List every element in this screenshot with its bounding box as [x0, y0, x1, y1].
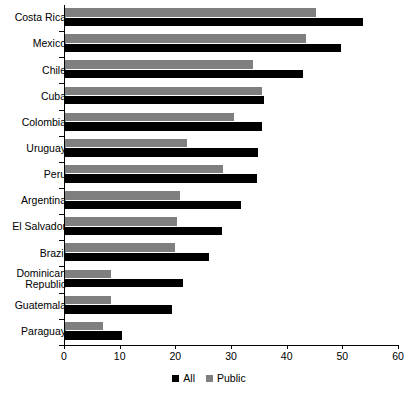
x-axis-tick-label: 30 — [211, 350, 251, 363]
bar-all — [65, 96, 264, 104]
chart-row: Brazil — [0, 240, 418, 266]
bar-all — [65, 331, 122, 339]
bar-all — [65, 122, 262, 130]
category-label: Mexico — [2, 31, 66, 57]
category-label: Brazil — [2, 240, 66, 266]
bar-public — [65, 8, 316, 16]
bar-all — [65, 227, 222, 235]
category-rows: Costa RicaMexicoChileCubaColombiaUruguay… — [0, 5, 418, 345]
x-axis-ticks: 0102030405060 — [0, 345, 418, 367]
x-axis-tick-label: 20 — [155, 350, 195, 363]
x-axis-tick-label: 10 — [100, 350, 140, 363]
bar-all — [65, 70, 303, 78]
x-axis-tick — [64, 345, 65, 349]
legend-label: Public — [217, 372, 246, 384]
x-axis-tick — [175, 345, 176, 349]
chart-row: El Salvador — [0, 214, 418, 240]
category-label: El Salvador — [2, 214, 66, 240]
bar-public — [65, 87, 262, 95]
bar-all — [65, 305, 172, 313]
bar-all — [65, 279, 183, 287]
legend-swatch-all — [172, 375, 179, 382]
chart-row: Peru — [0, 162, 418, 188]
category-label: Guatemala — [2, 293, 66, 319]
chart-row: Chile — [0, 57, 418, 83]
chart-row: Argentina — [0, 188, 418, 214]
bar-all — [65, 174, 257, 182]
category-label: Paraguay — [2, 319, 66, 345]
category-label: Uruguay — [2, 136, 66, 162]
chart-row: Cuba — [0, 83, 418, 109]
bar-all — [65, 201, 241, 209]
legend-label: All — [183, 372, 195, 384]
bar-public — [65, 60, 253, 68]
category-label: Chile — [2, 57, 66, 83]
bar-public — [65, 165, 223, 173]
category-label: Costa Rica — [2, 5, 66, 31]
bar-all — [65, 44, 341, 52]
category-label: Peru — [2, 162, 66, 188]
bar-public — [65, 139, 187, 147]
x-axis-tick — [342, 345, 343, 349]
category-label: Cuba — [2, 83, 66, 109]
x-axis-tick-label: 0 — [44, 350, 84, 363]
chart-row: Dominican Republic — [0, 266, 418, 292]
bar-public — [65, 217, 177, 225]
bar-public — [65, 191, 180, 199]
chart-legend: AllPublic — [0, 372, 418, 384]
legend-swatch-public — [206, 375, 213, 382]
chart-row: Guatemala — [0, 293, 418, 319]
bar-public — [65, 34, 306, 42]
bar-public — [65, 322, 103, 330]
chart-row: Costa Rica — [0, 5, 418, 31]
legend-item[interactable]: All — [172, 372, 195, 384]
category-label: Dominican Republic — [2, 266, 66, 292]
bar-all — [65, 253, 209, 261]
category-label: Argentina — [2, 188, 66, 214]
bar-public — [65, 243, 175, 251]
category-label: Colombia — [2, 110, 66, 136]
x-axis-tick — [231, 345, 232, 349]
bar-public — [65, 270, 111, 278]
bar-public — [65, 296, 111, 304]
x-axis-tick-label: 50 — [322, 350, 362, 363]
bar-all — [65, 148, 258, 156]
x-axis-tick — [120, 345, 121, 349]
x-axis-tick-label: 40 — [267, 350, 307, 363]
x-axis-tick — [287, 345, 288, 349]
x-axis-tick — [398, 345, 399, 349]
chart-row: Uruguay — [0, 136, 418, 162]
chart-row: Paraguay — [0, 319, 418, 345]
legend-item[interactable]: Public — [206, 372, 246, 384]
bar-all — [65, 18, 363, 26]
chart-row: Colombia — [0, 110, 418, 136]
x-axis-tick-label: 60 — [378, 350, 418, 363]
chart-row: Mexico — [0, 31, 418, 57]
bar-public — [65, 113, 234, 121]
bar-chart: Costa RicaMexicoChileCubaColombiaUruguay… — [0, 0, 418, 393]
